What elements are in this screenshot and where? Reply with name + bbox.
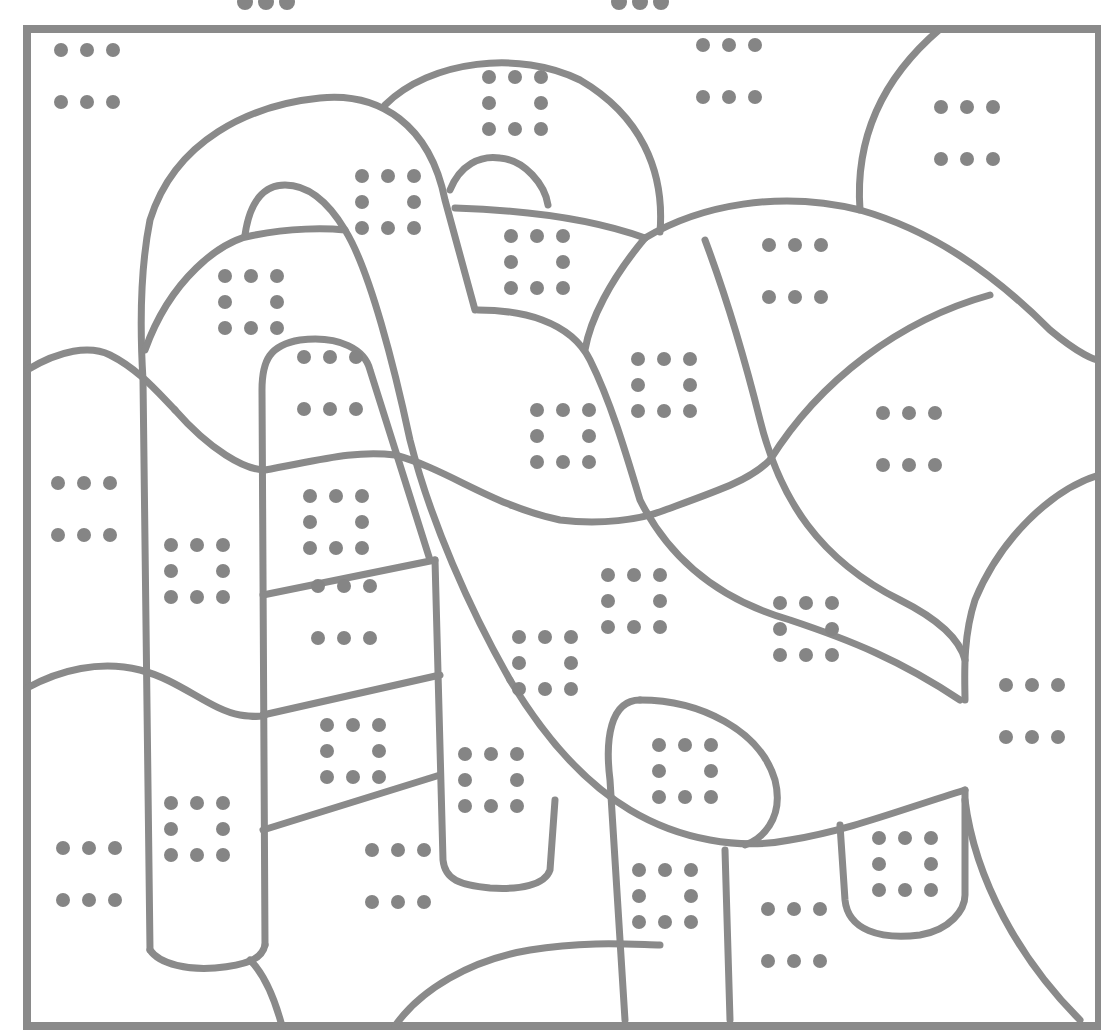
pattern-dot [684, 915, 698, 929]
pattern-dot [696, 90, 710, 104]
pattern-dot [814, 238, 828, 252]
pattern-dot [164, 796, 178, 810]
pattern-dot [216, 564, 230, 578]
dinosaur-outline [141, 97, 965, 1020]
pattern-dot [355, 195, 369, 209]
pattern-dot [538, 630, 552, 644]
pattern-dot [530, 281, 544, 295]
six-dot-pattern[interactable] [297, 350, 363, 416]
six-dot-pattern[interactable] [999, 678, 1065, 744]
pattern-dot [504, 229, 518, 243]
pattern-dot [355, 221, 369, 235]
eight-dot-pattern[interactable] [355, 169, 421, 235]
eight-dot-pattern[interactable] [164, 796, 230, 862]
pattern-dot [748, 38, 762, 52]
pattern-dot [190, 848, 204, 862]
header-marker [237, 0, 295, 10]
pattern-dot [363, 579, 377, 593]
pattern-dot [678, 738, 692, 752]
six-dot-pattern[interactable] [762, 238, 828, 304]
six-dot-pattern[interactable] [761, 902, 827, 968]
pattern-dot [391, 843, 405, 857]
pattern-dot [960, 100, 974, 114]
pattern-dot [748, 90, 762, 104]
six-dot-pattern[interactable] [365, 843, 431, 909]
six-dot-pattern[interactable] [696, 38, 762, 104]
pattern-dot [508, 122, 522, 136]
pattern-dot [303, 489, 317, 503]
pattern-dot [106, 43, 120, 57]
pattern-dot [51, 528, 65, 542]
pattern-dot [1051, 730, 1065, 744]
pattern-dot [80, 43, 94, 57]
pattern-dot [530, 403, 544, 417]
pattern-dot [51, 476, 65, 490]
pattern-dot [484, 799, 498, 813]
pattern-dot [279, 0, 295, 10]
pattern-dot [508, 70, 522, 84]
eight-dot-pattern[interactable] [320, 718, 386, 784]
pattern-dot [355, 489, 369, 503]
pattern-dot [164, 822, 178, 836]
pattern-dot [54, 95, 68, 109]
pattern-dot [381, 221, 395, 235]
pattern-dot [349, 402, 363, 416]
pattern-dot [164, 848, 178, 862]
pattern-dot [924, 831, 938, 845]
eight-dot-pattern[interactable] [303, 489, 369, 555]
pattern-dot [54, 43, 68, 57]
pattern-dot [825, 622, 839, 636]
eight-dot-pattern[interactable] [652, 738, 718, 804]
eight-dot-pattern[interactable] [218, 269, 284, 335]
pattern-dot [657, 352, 671, 366]
pattern-dot [56, 841, 70, 855]
eight-dot-pattern[interactable] [632, 863, 698, 929]
pattern-dot [924, 883, 938, 897]
pattern-dot [80, 95, 94, 109]
dot-pattern-regions [51, 38, 1065, 968]
eight-dot-pattern[interactable] [530, 403, 596, 469]
pattern-dot [814, 290, 828, 304]
pattern-dot [323, 402, 337, 416]
pattern-dot [218, 269, 232, 283]
pattern-dot [311, 579, 325, 593]
pattern-dot [704, 764, 718, 778]
pattern-dot [407, 221, 421, 235]
eight-dot-pattern[interactable] [164, 538, 230, 604]
eight-dot-pattern[interactable] [458, 747, 524, 813]
pattern-dot [1025, 678, 1039, 692]
pattern-dot [556, 229, 570, 243]
eight-dot-pattern[interactable] [601, 568, 667, 634]
eight-dot-pattern[interactable] [631, 352, 697, 418]
pattern-dot [872, 883, 886, 897]
pattern-dot [534, 122, 548, 136]
pattern-dot [258, 0, 274, 10]
pattern-dot [458, 799, 472, 813]
pattern-dot [329, 489, 343, 503]
pattern-dot [582, 455, 596, 469]
pattern-dot [323, 350, 337, 364]
six-dot-pattern[interactable] [51, 476, 117, 542]
pattern-dot [190, 796, 204, 810]
pattern-dot [601, 620, 615, 634]
pattern-dot [632, 0, 648, 10]
six-dot-pattern[interactable] [54, 43, 120, 109]
six-dot-pattern[interactable] [311, 579, 377, 645]
six-dot-pattern[interactable] [934, 100, 1000, 166]
eight-dot-pattern[interactable] [512, 630, 578, 696]
pattern-dot [417, 895, 431, 909]
eight-dot-pattern[interactable] [482, 70, 548, 136]
eight-dot-pattern[interactable] [504, 229, 570, 295]
background-shapes [27, 29, 1099, 1026]
pattern-dot [722, 90, 736, 104]
pattern-dot [898, 831, 912, 845]
pattern-dot [653, 620, 667, 634]
six-dot-pattern[interactable] [876, 406, 942, 472]
pattern-dot [652, 764, 666, 778]
eight-dot-pattern[interactable] [872, 831, 938, 897]
six-dot-pattern[interactable] [56, 841, 122, 907]
pattern-dot [216, 822, 230, 836]
pattern-dot [601, 568, 615, 582]
pattern-dot [627, 620, 641, 634]
pattern-dot [696, 38, 710, 52]
